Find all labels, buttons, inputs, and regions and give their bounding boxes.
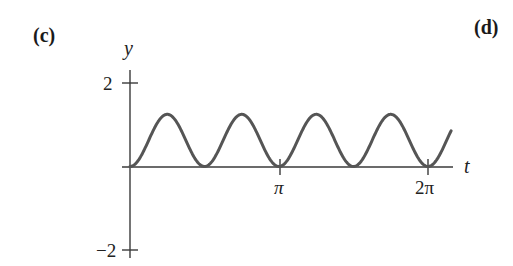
t-tick-label-pi: π <box>274 177 284 198</box>
y-tick-label-2: 2 <box>103 73 113 94</box>
data-curve <box>130 114 451 166</box>
t-tick-label-2pi: 2π <box>415 177 435 198</box>
t-axis-label: t <box>464 155 470 177</box>
y-tick-label-neg2: −2 <box>96 240 116 261</box>
chart-plot: y t 2 −2 π 2π <box>0 0 513 266</box>
y-axis-label: y <box>122 37 133 60</box>
